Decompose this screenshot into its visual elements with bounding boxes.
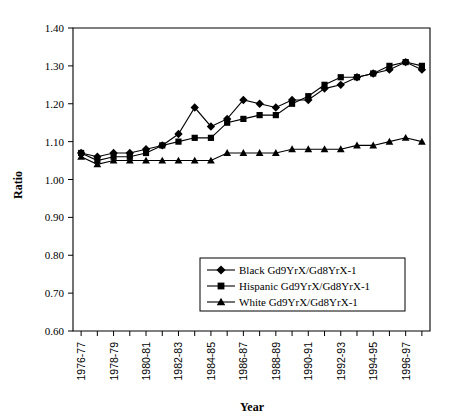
data-point-marker bbox=[255, 100, 263, 108]
y-tick-label: 0.60 bbox=[45, 325, 65, 337]
data-point-marker bbox=[370, 70, 376, 76]
legend-label: Hispanic Gd9YrX/Gd8YrX-1 bbox=[239, 280, 370, 292]
data-point-marker bbox=[419, 63, 425, 69]
chart-legend: Black Gd9YrX/Gd8YrX-1Hispanic Gd9YrX/Gd8… bbox=[200, 258, 405, 311]
y-axis-ticks bbox=[68, 28, 73, 331]
legend-marker-square bbox=[218, 283, 225, 290]
series-line bbox=[81, 138, 422, 165]
data-point-marker bbox=[175, 139, 181, 145]
x-tick-label: 1994-95 bbox=[367, 342, 379, 381]
x-tick-label: 1986-87 bbox=[237, 342, 249, 381]
data-point-marker bbox=[289, 101, 295, 107]
line-chart: 1.401.301.201.101.000.900.800.700.60 197… bbox=[0, 0, 458, 419]
x-axis-tick-labels: 1976-771978-791980-811982-831984-851986-… bbox=[75, 342, 412, 381]
y-axis-title: Ratio bbox=[11, 171, 25, 199]
data-point-marker bbox=[174, 130, 182, 138]
data-point-marker bbox=[208, 135, 214, 141]
legend-label: White Gd9YrX/Gd8YrX-1 bbox=[239, 296, 358, 308]
x-tick-label: 1990-91 bbox=[302, 342, 314, 381]
data-point-marker bbox=[192, 135, 198, 141]
y-tick-label: 1.30 bbox=[45, 60, 65, 72]
legend-label: Black Gd9YrX/Gd8YrX-1 bbox=[239, 264, 357, 276]
x-tick-label: 1984-85 bbox=[205, 342, 217, 381]
x-tick-label: 1980-81 bbox=[140, 342, 152, 381]
y-tick-label: 1.00 bbox=[45, 174, 65, 186]
data-point-marker bbox=[273, 112, 279, 118]
data-point-marker bbox=[224, 120, 230, 126]
data-point-marker bbox=[159, 142, 165, 148]
x-tick-label: 1988-89 bbox=[270, 342, 282, 381]
x-tick-label: 1976-77 bbox=[75, 342, 87, 381]
y-tick-label: 0.80 bbox=[45, 249, 65, 261]
y-tick-label: 1.40 bbox=[45, 22, 65, 34]
x-tick-label: 1992-93 bbox=[335, 342, 347, 381]
data-point-marker bbox=[321, 82, 327, 88]
data-point-marker bbox=[386, 63, 392, 69]
data-point-marker bbox=[143, 150, 149, 156]
data-point-marker bbox=[403, 59, 409, 65]
chart-container: 1.401.301.201.101.000.900.800.700.60 197… bbox=[0, 0, 458, 419]
data-point-marker bbox=[354, 74, 360, 80]
y-tick-label: 1.20 bbox=[45, 98, 65, 110]
data-point-marker bbox=[338, 74, 344, 80]
data-point-marker bbox=[257, 112, 263, 118]
x-tick-label: 1996-97 bbox=[400, 342, 412, 381]
y-tick-label: 0.70 bbox=[45, 287, 65, 299]
data-point-marker bbox=[337, 81, 345, 89]
x-tick-label: 1982-83 bbox=[172, 342, 184, 381]
x-axis-title: Year bbox=[240, 400, 265, 414]
x-tick-label: 1978-79 bbox=[108, 342, 120, 381]
x-axis-ticks bbox=[81, 331, 422, 336]
data-point-marker bbox=[240, 116, 246, 122]
data-point-marker bbox=[402, 134, 410, 141]
data-series-layer bbox=[77, 58, 426, 167]
data-point-marker bbox=[305, 93, 311, 99]
data-point-marker bbox=[272, 103, 280, 111]
y-tick-label: 1.10 bbox=[45, 136, 65, 148]
y-tick-label: 0.90 bbox=[45, 211, 65, 223]
y-axis-tick-labels: 1.401.301.201.101.000.900.800.700.60 bbox=[45, 22, 65, 337]
